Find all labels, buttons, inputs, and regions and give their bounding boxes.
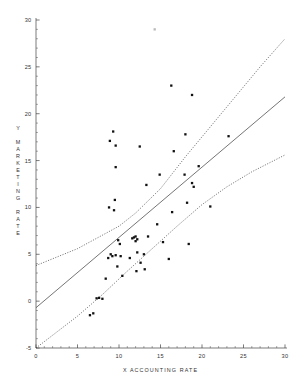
y-axis-title-char: M: [16, 139, 21, 145]
x-tick-label: 10: [116, 353, 123, 359]
x-tick-label: 30: [282, 353, 289, 359]
y-axis-title-char: G: [16, 195, 20, 201]
data-point-marker: [162, 241, 164, 243]
axis-labels: 051015202530-5051015202530X ACCOUNTING R…: [16, 17, 289, 373]
data-point-marker: [173, 150, 175, 152]
data-point-marker: [98, 297, 100, 299]
data-point-marker: [92, 312, 94, 314]
data-point-marker: [95, 297, 97, 299]
confidence-band-path: [36, 39, 285, 266]
data-point-marker: [115, 166, 117, 168]
data-point-marker: [139, 145, 141, 147]
data-point-marker: [121, 275, 123, 277]
data-point-marker: [144, 268, 146, 270]
x-tick-label: 0: [34, 353, 37, 359]
y-axis-title-char: A: [16, 216, 20, 222]
data-point-marker: [143, 253, 145, 255]
x-axis-title: X ACCOUNTING RATE: [123, 367, 198, 373]
data-point-marker: [191, 94, 193, 96]
y-axis-title-char: N: [16, 188, 20, 194]
data-point-marker: [184, 133, 186, 135]
data-point-marker: [193, 186, 195, 188]
data-point-marker: [168, 258, 170, 260]
data-point-marker: [115, 144, 117, 146]
data-point-marker: [107, 257, 109, 259]
data-point-marker: [159, 173, 161, 175]
data-point-marker: [109, 140, 111, 142]
regression-line-path: [36, 97, 285, 308]
confidence-band-path: [36, 155, 285, 348]
data-point-marker: [105, 278, 107, 280]
data-point-marker: [171, 211, 173, 213]
y-axis-title-char: A: [16, 146, 20, 152]
data-point-marker: [209, 205, 211, 207]
y-tick-label: 20: [25, 111, 32, 117]
data-point-marker: [101, 298, 103, 300]
y-axis-title-char: Y: [16, 125, 20, 131]
data-point-marker: [135, 270, 137, 272]
data-point-marker: [108, 206, 110, 208]
data-point-marker: [112, 130, 114, 132]
data-point-marker: [136, 251, 138, 253]
data-point-marker: [89, 314, 91, 316]
data-point-marker: [136, 238, 138, 240]
data-point-marker: [139, 262, 141, 264]
data-points: [89, 28, 230, 316]
y-axis-title-char: R: [16, 153, 20, 159]
y-axis-title-char: E: [16, 167, 20, 173]
confidence-bands: [36, 39, 285, 348]
data-point-marker: [117, 239, 119, 241]
axes: [36, 18, 287, 348]
data-point-marker: [129, 257, 131, 259]
data-point-marker: [170, 84, 172, 86]
y-tick-label: -5: [26, 345, 32, 351]
regression-line: [36, 97, 285, 308]
y-axis-title-char: T: [16, 174, 20, 180]
data-point-marker: [134, 235, 136, 237]
data-point-marker: [145, 184, 147, 186]
data-point-marker: [227, 135, 229, 137]
data-point-marker: [114, 199, 116, 201]
data-point-marker: [147, 235, 149, 237]
y-tick-label: 5: [28, 251, 31, 257]
data-point-marker: [198, 165, 200, 167]
data-point-marker: [119, 243, 121, 245]
x-tick-label: 15: [157, 353, 164, 359]
y-axis-title-char: I: [17, 181, 19, 187]
data-point-marker: [111, 255, 113, 257]
x-tick-label: 25: [240, 353, 247, 359]
data-point-marker: [191, 182, 193, 184]
data-point-marker: [183, 173, 185, 175]
data-point-marker: [186, 202, 188, 204]
plot-canvas: 051015202530-5051015202530X ACCOUNTING R…: [0, 0, 304, 383]
x-tick-label: 20: [199, 353, 206, 359]
y-tick-label: 30: [25, 17, 32, 23]
data-point-marker: [156, 223, 158, 225]
y-axis-title-char: T: [16, 223, 20, 229]
y-tick-label: 10: [25, 204, 32, 210]
y-axis-title-char: R: [16, 209, 20, 215]
data-point-marker: [120, 255, 122, 257]
data-point-marker: [115, 254, 117, 256]
data-point-marker: [188, 243, 190, 245]
y-tick-label: 25: [25, 64, 32, 70]
y-axis-title-char: E: [16, 230, 20, 236]
data-point-marker: [113, 209, 115, 211]
data-point-marker: [116, 265, 118, 267]
y-axis-title-char: K: [16, 160, 20, 166]
scatter-plot-figure: 051015202530-5051015202530X ACCOUNTING R…: [0, 0, 304, 383]
y-tick-label: 15: [25, 158, 32, 164]
x-tick-label: 5: [76, 353, 79, 359]
y-tick-label: 0: [28, 298, 31, 304]
data-point-marker: [154, 28, 156, 30]
